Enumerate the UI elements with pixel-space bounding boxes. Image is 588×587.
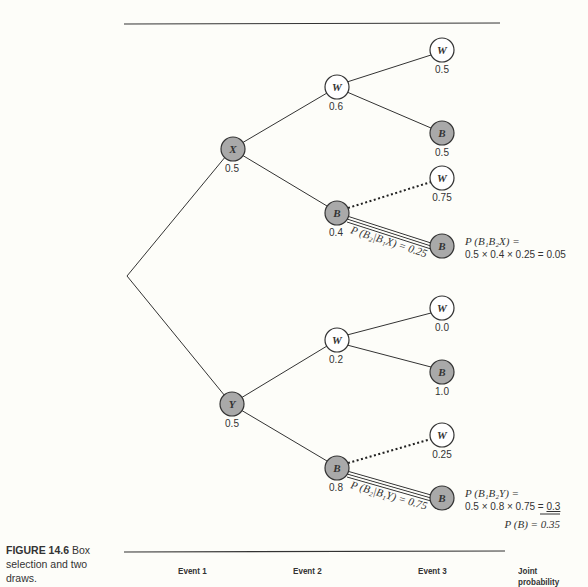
svg-text:0.5 × 0.8 × 0.75 = 0.3: 0.5 × 0.8 × 0.75 = 0.3: [465, 501, 561, 512]
node-label: B: [437, 240, 445, 252]
figure-caption: FIGURE 14.6 Box selection and two draws.: [6, 543, 116, 585]
node-label: W: [437, 302, 448, 314]
joint-y-value: 0.3: [546, 501, 560, 512]
prob-label: 0.5: [435, 147, 449, 158]
edges: [127, 55, 431, 461]
prob-label: 0.0: [435, 322, 449, 333]
bottom-rule: [124, 551, 505, 552]
node-label: B: [437, 366, 445, 378]
prob-label: 0.4: [329, 227, 343, 238]
joint-x-line1: P (B₁B₂X) =: [464, 235, 520, 248]
node-label: B: [437, 492, 445, 504]
prob-label: 1.0: [435, 386, 449, 397]
node-label: B: [332, 207, 340, 219]
prob-label: 0.5: [225, 163, 239, 174]
prob-label: 0.8: [329, 482, 343, 493]
dotted-edges: [348, 182, 431, 463]
prob-label: 0.75: [432, 192, 452, 203]
node-label: W: [437, 429, 448, 441]
node-label: W: [332, 81, 343, 93]
column-event-2: Event 2: [293, 565, 322, 576]
figure-label: FIGURE 14.6: [6, 544, 69, 556]
joint-y-line1: P (B₁B₂Y) =: [464, 487, 519, 500]
prob-label: 0.25: [432, 449, 452, 460]
node-label: B: [332, 462, 340, 474]
node-label: B: [437, 127, 445, 139]
prob-label: 0.5: [435, 64, 449, 75]
node-label: W: [332, 334, 343, 346]
double-edges: [347, 216, 431, 501]
joint-y-line2: 0.5 × 0.8 × 0.75 =: [465, 501, 546, 512]
column-event-1: Event 1: [178, 565, 207, 576]
prob-label: 0.6: [329, 101, 343, 112]
node-label: W: [437, 44, 448, 56]
node-label: W: [437, 172, 448, 184]
total-probability: P (B) = 0.35: [504, 518, 561, 531]
column-joint-probability: Joint probability: [518, 565, 578, 587]
prob-label: 0.5: [225, 418, 239, 429]
joint-x-line2: 0.5 × 0.4 × 0.25 = 0.05: [465, 249, 566, 260]
node-x-label: X: [228, 143, 237, 155]
prob-label: 0.2: [329, 354, 343, 365]
column-event-3: Event 3: [418, 565, 447, 576]
top-rule: [124, 23, 500, 24]
